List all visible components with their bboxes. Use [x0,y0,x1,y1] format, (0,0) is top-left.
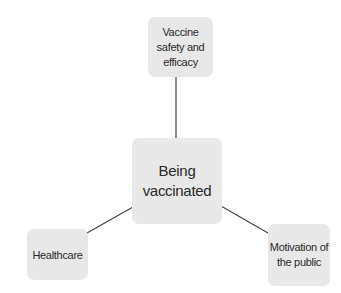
edge-center-right [221,206,268,233]
node-healthcare: Healthcare [27,229,88,280]
node-motivation-of-public: Motivation of the public [268,224,330,286]
edge-center-left [87,207,133,233]
node-label: Healthcare [32,249,82,261]
node-vaccine-safety-efficacy: Vaccine safety and efficacy [148,17,213,77]
node-being-vaccinated: Being vaccinated [132,138,222,224]
node-label: Being vaccinated [132,161,222,201]
node-label: Vaccine safety and efficacy [148,25,213,70]
node-label: Motivation of the public [268,240,330,270]
